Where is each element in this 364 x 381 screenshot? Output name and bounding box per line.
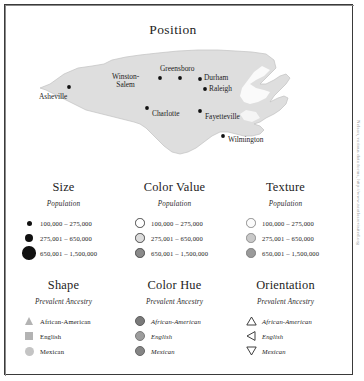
legend-item: African-American bbox=[242, 314, 341, 329]
city-label-charlotte: Charlotte bbox=[152, 110, 180, 118]
city-label-greensboro: Greensboro bbox=[160, 65, 194, 73]
legend-item-label: 275,001 – 650,000 bbox=[260, 235, 314, 242]
legend-size-title: Size bbox=[8, 181, 119, 195]
legend-orientation: Orientation Prevalent Ancestry African-A… bbox=[230, 279, 341, 359]
legend-item-label: Mexican bbox=[260, 348, 286, 355]
legend-item: African-American bbox=[131, 314, 230, 329]
city-dot-fayetteville bbox=[198, 109, 202, 113]
legend-item: Mexican bbox=[20, 344, 119, 359]
legend-item-label: African-American bbox=[38, 318, 91, 325]
city-label-wilmington: Wilmington bbox=[228, 136, 263, 144]
legend-item: 100,000 – 275,000 bbox=[131, 216, 230, 231]
legend-item-label: English bbox=[38, 333, 61, 340]
square-icon bbox=[20, 329, 38, 344]
legend-item: English bbox=[131, 329, 230, 344]
legend-texture-subtitle: Population bbox=[230, 200, 341, 208]
legend-color-hue: Color Hue Prevalent Ancestry African-Ame… bbox=[119, 279, 230, 359]
legend-row-quantitative: Size Population 100,000 – 275,000 275,00… bbox=[8, 181, 342, 261]
legend-item-label: English bbox=[260, 333, 283, 340]
edge-caption-text: Nelson, various data forms, http://www.n… bbox=[356, 120, 361, 245]
size-dot-small-icon bbox=[20, 216, 38, 231]
legend-item: English bbox=[20, 329, 119, 344]
city-dot-greensboro bbox=[178, 76, 182, 80]
north-carolina-map-svg bbox=[8, 40, 338, 176]
legend-color-hue-items: African-American English Mexican bbox=[119, 314, 230, 359]
city-dot-durham bbox=[198, 77, 202, 81]
hue-circle-2-icon bbox=[131, 329, 149, 344]
legend-shape: Shape Prevalent Ancestry African-America… bbox=[8, 279, 119, 359]
legend-orientation-subtitle: Prevalent Ancestry bbox=[230, 298, 341, 306]
value-circle-dark-icon bbox=[131, 246, 149, 261]
legend-item: 650,001 – 1,500,000 bbox=[20, 246, 119, 261]
legend-texture-title: Texture bbox=[230, 181, 341, 195]
legend-color-hue-title: Color Hue bbox=[119, 279, 230, 293]
legend-item-label: 100,000 – 275,000 bbox=[260, 220, 314, 227]
city-dot-wilmington bbox=[221, 134, 225, 138]
legend-size-subtitle: Population bbox=[8, 200, 119, 208]
legend-color-value-items: 100,000 – 275,000 275,001 – 650,000 650,… bbox=[119, 216, 230, 261]
legend-item-label: 650,001 – 1,500,000 bbox=[260, 250, 319, 257]
legend-item-label: English bbox=[149, 333, 172, 340]
legend-item: 275,001 – 650,000 bbox=[20, 231, 119, 246]
legend-item: Mexican bbox=[242, 344, 341, 359]
circle-icon bbox=[20, 344, 38, 359]
legend-orientation-title: Orientation bbox=[230, 279, 341, 293]
legend-color-value-subtitle: Population bbox=[119, 200, 230, 208]
triangle-left-outline-icon bbox=[242, 329, 260, 344]
legend-texture: Texture Population 100,000 – 275,000 275… bbox=[230, 181, 341, 261]
legend-item-label: 650,001 – 1,500,000 bbox=[38, 250, 97, 257]
texture-circle-fine-icon bbox=[242, 216, 260, 231]
legend-item: Mexican bbox=[131, 344, 230, 359]
value-circle-mid-icon bbox=[131, 231, 149, 246]
city-label-raleigh: Raleigh bbox=[209, 85, 232, 93]
map-canvas: Asheville Winston- Salem Greensboro Durh… bbox=[8, 40, 338, 176]
legend-item: 650,001 – 1,500,000 bbox=[131, 246, 230, 261]
triangle-down-outline-icon bbox=[242, 344, 260, 359]
hue-circle-3-icon bbox=[131, 344, 149, 359]
legend-item-label: African-American bbox=[260, 318, 312, 325]
size-dot-medium-icon bbox=[20, 231, 38, 246]
texture-circle-coarse-icon bbox=[242, 246, 260, 261]
city-label-winston-salem: Winston- Salem bbox=[112, 73, 139, 89]
legend-shape-title: Shape bbox=[8, 279, 119, 293]
triangle-up-icon bbox=[20, 314, 38, 329]
legend-row-qualitative: Shape Prevalent Ancestry African-America… bbox=[8, 279, 342, 359]
legend-item-label: 275,001 – 650,000 bbox=[38, 235, 92, 242]
city-dot-raleigh bbox=[203, 87, 207, 91]
map-title: Position bbox=[8, 22, 338, 38]
legend-item-label: Mexican bbox=[38, 348, 64, 355]
legend-item: African-American bbox=[20, 314, 119, 329]
city-label-durham: Durham bbox=[204, 74, 228, 82]
legend-shape-items: African-American English Mexican bbox=[8, 314, 119, 359]
city-dot-winston-salem bbox=[158, 76, 162, 80]
legend-size: Size Population 100,000 – 275,000 275,00… bbox=[8, 181, 119, 261]
edge-caption: Nelson, various data forms, http://www.n… bbox=[350, 120, 364, 370]
triangle-up-outline-icon bbox=[242, 314, 260, 329]
legend-color-value: Color Value Population 100,000 – 275,000… bbox=[119, 181, 230, 261]
legend-texture-items: 100,000 – 275,000 275,001 – 650,000 650,… bbox=[230, 216, 341, 261]
legend-orientation-items: African-American English bbox=[230, 314, 341, 359]
legend-item-label: African-American bbox=[149, 318, 201, 325]
texture-circle-mid-icon bbox=[242, 231, 260, 246]
legend-item: English bbox=[242, 329, 341, 344]
city-dot-charlotte bbox=[145, 106, 149, 110]
visual-variables-figure: Position bbox=[0, 0, 364, 381]
value-circle-light-icon bbox=[131, 216, 149, 231]
legend-item-label: 100,000 – 275,000 bbox=[38, 220, 92, 227]
size-dot-large-icon bbox=[20, 246, 38, 261]
city-label-winston-salem-line2: Salem bbox=[112, 81, 139, 89]
legend-item: 275,001 – 650,000 bbox=[242, 231, 341, 246]
city-label-fayetteville: Fayetteville bbox=[205, 113, 240, 121]
legend-item-label: Mexican bbox=[149, 348, 175, 355]
city-label-asheville: Asheville bbox=[39, 93, 67, 101]
legend-item: 100,000 – 275,000 bbox=[242, 216, 341, 231]
map-panel: Position bbox=[8, 8, 338, 178]
legend-shape-subtitle: Prevalent Ancestry bbox=[8, 298, 119, 306]
legend-item-label: 275,001 – 650,000 bbox=[149, 235, 203, 242]
hue-circle-1-icon bbox=[131, 314, 149, 329]
legend-item: 100,000 – 275,000 bbox=[20, 216, 119, 231]
legend-color-hue-subtitle: Prevalent Ancestry bbox=[119, 298, 230, 306]
legend-size-items: 100,000 – 275,000 275,001 – 650,000 650,… bbox=[8, 216, 119, 261]
legend-item: 275,001 – 650,000 bbox=[131, 231, 230, 246]
legend-item: 650,001 – 1,500,000 bbox=[242, 246, 341, 261]
